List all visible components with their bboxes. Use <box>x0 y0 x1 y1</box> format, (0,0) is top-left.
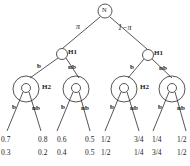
game-tree-figure: N π 1−π H1 H1 b nb b nb H2 H2 b nb b nb … <box>0 0 190 166</box>
edge-label-leaf1-b: b <box>12 104 16 111</box>
edge-label-h1r-nb: nb <box>159 65 167 72</box>
infoset-oval-1 <box>13 76 39 102</box>
edge-label-h1l-b: b <box>37 63 41 70</box>
edge-leaf-3-b <box>105 92 121 131</box>
edge-h1l-b <box>30 58 58 78</box>
edge-label-leaf1-nb: nb <box>32 105 40 112</box>
h1-right-label: H1 <box>154 50 163 57</box>
payoff-3-top: 0.6 <box>57 136 66 144</box>
payoff-5-top: 1/2 <box>101 136 111 144</box>
decision-node-2 <box>72 84 81 93</box>
nature-node-label: N <box>102 7 107 14</box>
payoff-6-bottom: 1/4 <box>134 149 144 157</box>
payoff-7-bottom: 3/4 <box>152 149 162 157</box>
payoff-8-top: 1/2 <box>177 136 187 144</box>
payoff-5-bottom: 1/2 <box>101 149 111 157</box>
edge-label-one-minus-pi: 1−π <box>118 24 131 32</box>
decision-node-3 <box>120 84 129 93</box>
decision-node-4 <box>168 84 177 93</box>
payoff-2-bottom: 0.2 <box>38 149 47 157</box>
h1-left-label: H1 <box>68 49 77 56</box>
payoff-1-bottom: 0.3 <box>1 149 10 157</box>
infoset-oval-4 <box>159 76 185 102</box>
payoff-4-top: 0.5 <box>85 136 94 144</box>
payoff-8-bottom: 1/2 <box>177 149 187 157</box>
payoff-4-bottom: 0.5 <box>85 149 94 157</box>
payoff-1-top: 0.7 <box>1 136 10 144</box>
edge-leaf-2-b <box>57 92 73 131</box>
edge-label-leaf4-nb: nb <box>177 105 185 112</box>
edge-label-h1l-nb: nb <box>68 64 76 71</box>
infoset-oval-3 <box>111 76 137 102</box>
h1-left-circle <box>57 49 68 60</box>
edge-label-leaf3-b: b <box>110 104 114 111</box>
infoset-oval-2 <box>63 76 89 102</box>
h1-right-circle <box>143 50 154 61</box>
payoff-6-top: 3/4 <box>134 136 144 144</box>
edge-label-leaf3-nb: nb <box>130 105 138 112</box>
edge-label-pi: π <box>76 23 80 31</box>
edge-leaf-4-b <box>153 92 169 131</box>
edge-label-leaf2-nb: nb <box>81 105 89 112</box>
decision-node-1 <box>22 84 31 93</box>
edge-leaf-1-b <box>7 92 23 131</box>
edge-label-leaf2-b: b <box>61 104 65 111</box>
edge-root-right <box>110 17 147 49</box>
payoff-2-top: 0.8 <box>38 136 47 144</box>
payoff-7-top: 1/4 <box>152 136 162 144</box>
edge-label-h1r-b: b <box>130 64 134 71</box>
payoff-3-bottom: 0.4 <box>57 149 66 157</box>
h2-right-label: H2 <box>140 84 149 91</box>
edge-root-left <box>63 17 100 48</box>
edge-label-leaf4-b: b <box>158 104 162 111</box>
h2-left-label: H2 <box>42 84 51 91</box>
